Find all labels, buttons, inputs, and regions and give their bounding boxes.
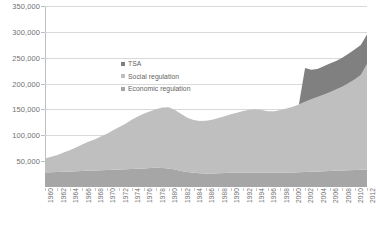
x-axis-tick — [256, 188, 257, 191]
x-axis-tick — [144, 188, 145, 191]
legend-label-tsa: TSA — [128, 60, 141, 67]
x-axis-tick-label: 1966 — [85, 188, 92, 203]
x-axis-tick — [280, 188, 281, 191]
legend-label-economic-regulation: Economic regulation — [128, 85, 191, 92]
y-axis-tick-label: 150,000 — [12, 105, 40, 114]
x-axis-tick-label: 1990 — [233, 188, 240, 203]
x-axis-tick-label: 1988 — [221, 188, 228, 203]
legend-item-social-regulation: Social regulation — [121, 73, 191, 80]
y-axis-tick-label: 350,000 — [12, 2, 40, 11]
x-axis-tick-label: 1968 — [97, 188, 104, 203]
x-axis-tick-label: 1980 — [171, 188, 178, 203]
x-axis-tick-label: 2010 — [357, 188, 364, 203]
x-axis-tick-label: 1994 — [258, 188, 265, 203]
y-axis-tick-label: 50,000 — [16, 157, 40, 166]
x-axis-tick-label: 1960 — [47, 188, 54, 203]
x-axis-tick — [330, 188, 331, 191]
x-axis-tick — [82, 188, 83, 191]
x-axis-tick-label: 1978 — [159, 188, 166, 203]
x-axis-tick-label: 2012 — [369, 188, 376, 203]
x-axis-tick — [367, 188, 368, 191]
chart-legend: TSA Social regulation Economic regulatio… — [121, 60, 191, 92]
x-axis-tick-label: 1970 — [109, 188, 116, 203]
x-axis-tick — [57, 188, 58, 191]
x-axis-tick-label: 1998 — [283, 188, 290, 203]
x-axis-tick — [95, 188, 96, 191]
x-axis-tick-label: 1962 — [60, 188, 67, 203]
x-axis-tick-label: 2006 — [332, 188, 339, 203]
x-axis-tick-label: 2008 — [345, 188, 352, 203]
legend-swatch-economic-regulation — [121, 87, 125, 91]
x-axis-tick-label: 1992 — [246, 188, 253, 203]
x-axis-tick — [70, 188, 71, 191]
x-axis-tick-label: 1996 — [270, 188, 277, 203]
x-axis-tick — [231, 188, 232, 191]
x-axis-tick-label: 1984 — [196, 188, 203, 203]
legend-item-economic-regulation: Economic regulation — [121, 85, 191, 92]
x-axis-tick — [206, 188, 207, 191]
x-axis-tick — [293, 188, 294, 191]
x-axis-tick — [132, 188, 133, 191]
x-axis-tick — [169, 188, 170, 191]
x-axis-tick-label: 1964 — [72, 188, 79, 203]
x-axis-tick-label: 2000 — [295, 188, 302, 203]
stacked-area-series — [45, 6, 367, 187]
x-axis-tick-label: 1976 — [146, 188, 153, 203]
x-axis-tick — [119, 188, 120, 191]
x-axis-tick-label: 1972 — [122, 188, 129, 203]
legend-label-social-regulation: Social regulation — [128, 73, 179, 80]
x-axis-tick-label: 1986 — [208, 188, 215, 203]
x-axis-tick — [218, 188, 219, 191]
x-axis-tick — [194, 188, 195, 191]
legend-item-tsa: TSA — [121, 60, 191, 67]
y-axis-tick-label: 100,000 — [12, 131, 40, 140]
plot-area: 350,000300,000250,000200,000150,000100,0… — [45, 6, 367, 187]
x-axis-labels: 1960196219641966196819701972197419761978… — [45, 188, 367, 233]
legend-swatch-social-regulation — [121, 74, 125, 78]
x-axis-tick-label: 1974 — [134, 188, 141, 203]
y-axis-tick-label: 300,000 — [12, 27, 40, 36]
x-axis-tick-label: 2002 — [307, 188, 314, 203]
x-axis-tick — [317, 188, 318, 191]
x-axis-tick — [156, 188, 157, 191]
y-axis-tick-label: 200,000 — [12, 79, 40, 88]
x-axis-tick — [268, 188, 269, 191]
x-axis-tick-label: 2004 — [320, 188, 327, 203]
legend-swatch-tsa — [121, 62, 125, 66]
y-axis-tick-label: 250,000 — [12, 53, 40, 62]
x-axis-tick — [181, 188, 182, 191]
x-axis-tick — [305, 188, 306, 191]
x-axis-tick — [355, 188, 356, 191]
x-axis-tick — [243, 188, 244, 191]
x-axis-tick — [342, 188, 343, 191]
x-axis-tick — [107, 188, 108, 191]
x-axis-tick — [45, 188, 46, 191]
x-axis-tick-label: 1982 — [184, 188, 191, 203]
